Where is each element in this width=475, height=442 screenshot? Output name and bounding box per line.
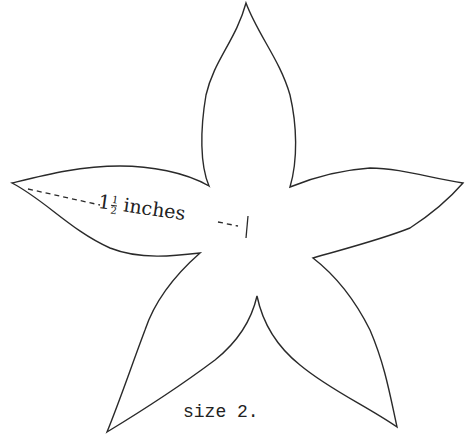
- measurement-fraction: 12: [110, 194, 119, 216]
- star-pattern-outline: [0, 0, 475, 442]
- size-caption: size 2.: [183, 402, 259, 422]
- measure-line-end: [218, 222, 238, 226]
- measure-line: [28, 189, 100, 205]
- star-outline: [12, 3, 463, 432]
- pattern-canvas: 112inches size 2.: [0, 0, 475, 442]
- measure-end-tick: [246, 216, 248, 238]
